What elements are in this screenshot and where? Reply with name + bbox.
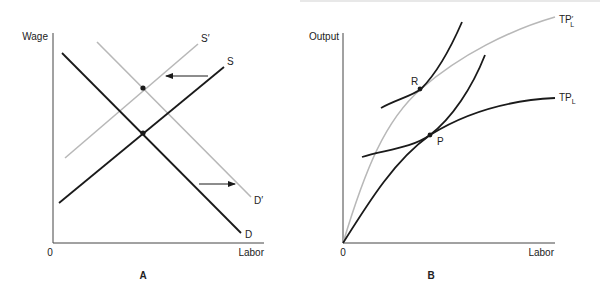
label-r: R <box>411 76 418 87</box>
total-product-curve <box>343 98 555 243</box>
label-p: P <box>437 136 444 147</box>
tangent-curve-at-r <box>381 22 462 108</box>
panel-a: Wage Labor 0 A S′ S D′ D <box>22 31 264 281</box>
point-r <box>418 87 423 92</box>
panel-b-x-axis-label: Labor <box>528 247 554 258</box>
panel-b: Output Labor 0 B R P TP′L TPL <box>309 14 576 281</box>
demand-curve-d <box>62 53 241 233</box>
label-s-prime: S′ <box>201 33 210 44</box>
equilibrium-point-new <box>140 85 145 90</box>
supply-curve-s-prime <box>65 44 198 158</box>
panel-b-origin-label: 0 <box>340 247 346 258</box>
label-s: S <box>227 56 234 67</box>
label-d-prime: D′ <box>254 195 263 206</box>
label-tp-l-main: TP <box>559 92 572 103</box>
label-tp-l-sub: L <box>572 98 576 105</box>
panel-a-label: A <box>139 270 146 281</box>
panel-a-y-axis-label: Wage <box>22 31 48 42</box>
label-tp-l-prime-sub: L <box>570 21 574 28</box>
panel-b-label: B <box>427 270 434 281</box>
label-d: D <box>245 229 252 240</box>
diagram-canvas: Wage Labor 0 A S′ S D′ D Output Labor 0 … <box>0 0 600 297</box>
label-tp-l: TPL <box>559 92 576 105</box>
panel-a-x-axis-label: Labor <box>238 247 264 258</box>
panel-b-y-axis-label: Output <box>309 31 339 42</box>
point-p <box>428 133 433 138</box>
equilibrium-point-original <box>140 130 145 135</box>
label-tp-l-prime: TP′L <box>559 14 574 28</box>
panel-a-origin-label: 0 <box>47 247 53 258</box>
